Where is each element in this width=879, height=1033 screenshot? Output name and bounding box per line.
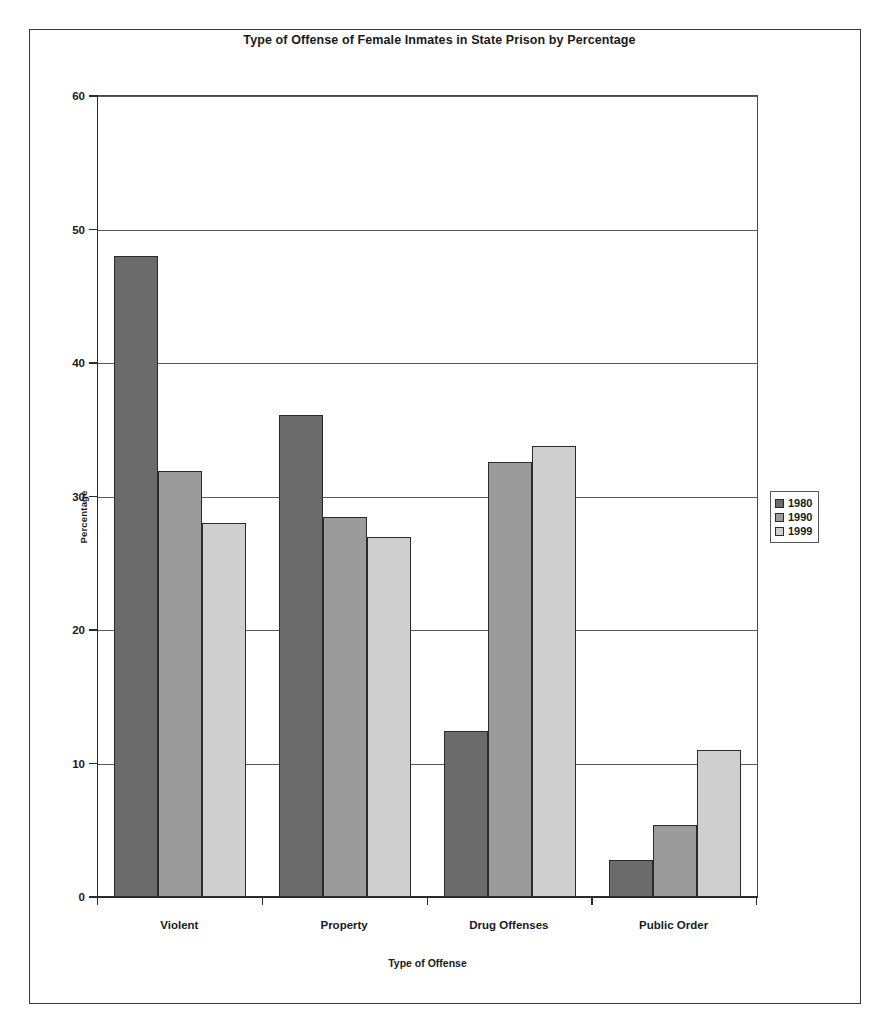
legend-swatch-icon xyxy=(775,513,784,522)
bar-1980-property xyxy=(279,415,323,897)
bar-1999-drug-offenses xyxy=(532,446,576,897)
x-axis-tick xyxy=(591,896,592,905)
y-axis-tick xyxy=(89,362,98,363)
x-axis-tick xyxy=(756,896,757,905)
y-axis-tick-label: 30 xyxy=(72,491,85,503)
bar-1990-public-order xyxy=(653,825,697,897)
bar-1999-public-order xyxy=(697,750,741,897)
y-axis-tick xyxy=(89,763,98,764)
bar-1980-drug-offenses xyxy=(444,731,488,897)
legend-label: 1990 xyxy=(788,512,812,523)
legend-item-1980: 1980 xyxy=(775,496,812,510)
legend-label: 1980 xyxy=(788,498,812,509)
bar-1999-property xyxy=(367,537,411,897)
y-axis-tick-label: 20 xyxy=(72,624,85,636)
y-axis-tick xyxy=(89,629,98,630)
y-axis-tick-label: 60 xyxy=(72,90,85,102)
chart-title: Type of Offense of Female Inmates in Sta… xyxy=(0,33,879,47)
y-axis-tick-label: 0 xyxy=(79,891,85,903)
y-axis-tick xyxy=(89,496,98,497)
x-axis-tick xyxy=(262,896,263,905)
x-axis-category-label: Public Order xyxy=(639,919,708,931)
x-axis-title: Type of Offense xyxy=(97,957,758,969)
gridline xyxy=(98,96,757,97)
x-axis-tick xyxy=(427,896,428,905)
gridline xyxy=(98,363,757,364)
y-axis-tick-label: 50 xyxy=(72,224,85,236)
legend-item-1999: 1999 xyxy=(775,524,812,538)
bar-1980-public-order xyxy=(609,860,653,897)
legend-swatch-icon xyxy=(775,527,784,536)
y-axis-tick xyxy=(89,95,98,96)
x-axis-category-label: Violent xyxy=(160,919,198,931)
y-axis-tick-label: 40 xyxy=(72,357,85,369)
bar-1990-violent xyxy=(158,471,202,897)
chart-legend: 198019901999 xyxy=(770,491,819,543)
y-axis-tick-label: 10 xyxy=(72,758,85,770)
legend-label: 1999 xyxy=(788,526,812,537)
x-axis-category-label: Property xyxy=(320,919,367,931)
bar-1999-violent xyxy=(202,523,246,897)
legend-swatch-icon xyxy=(775,499,784,508)
x-axis-tick xyxy=(97,896,98,905)
legend-item-1990: 1990 xyxy=(775,510,812,524)
x-axis-category-label: Drug Offenses xyxy=(469,919,548,931)
gridline xyxy=(98,230,757,231)
bar-1980-violent xyxy=(114,256,158,897)
bar-1990-property xyxy=(323,517,367,897)
bar-1990-drug-offenses xyxy=(488,462,532,897)
y-axis-tick xyxy=(89,229,98,230)
plot-area: 0102030405060 xyxy=(97,95,758,897)
